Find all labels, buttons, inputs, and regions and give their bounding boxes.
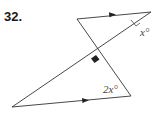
transversal-long — [12, 12, 151, 107]
angle-label-x: x° — [139, 26, 150, 38]
bottom-parallel-line — [12, 96, 131, 107]
parallel-arrow-bottom-icon — [82, 98, 89, 103]
right-angle-marker-icon — [91, 55, 100, 63]
angle-label-2x: 2x° — [103, 83, 118, 95]
top-parallel-line — [77, 12, 151, 19]
geometry-diagram: x° 2x° — [0, 0, 162, 116]
parallel-arrow-top-icon — [109, 12, 116, 17]
